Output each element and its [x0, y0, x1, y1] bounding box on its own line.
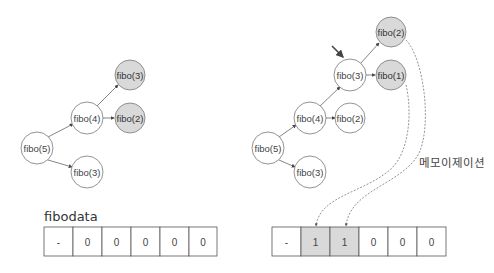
current-call-pointer-icon: [332, 46, 343, 57]
right-cell-4: 0: [400, 237, 406, 248]
memoization-arrows: [316, 40, 425, 226]
edge-fibo5-fibo4: [279, 125, 296, 137]
edge-fibo4-fibo3: [97, 85, 118, 106]
node-fibo4: fibo(4): [294, 102, 326, 134]
svg-text:fibo(4): fibo(4): [297, 113, 324, 124]
right-cell-2: 1: [342, 237, 348, 248]
svg-text:fibo(4): fibo(4): [74, 113, 101, 124]
node-fibo3: fibo(3): [334, 59, 366, 91]
svg-text:fibo(2): fibo(2): [378, 27, 405, 38]
left-tree-nodes: fibo(5) fibo(4) fibo(3) fibo(2) fibo(3): [21, 60, 145, 188]
edge-fibo5-fibo3: [48, 160, 72, 167]
svg-text:fibo(3): fibo(3): [74, 167, 101, 178]
node-fibo3-cached: fibo(3): [115, 60, 145, 90]
svg-text:fibo(5): fibo(5): [255, 143, 282, 154]
svg-text:fibo(2): fibo(2): [337, 113, 364, 124]
svg-text:fibo(3): fibo(3): [117, 70, 144, 81]
edge-fibo4-fibo3: [320, 87, 340, 106]
memoization-label: 메모이제이션: [419, 156, 485, 170]
left-cell-1: 0: [85, 237, 91, 248]
fibodata-label: fibodata: [44, 209, 98, 224]
right-tree-nodes: fibo(5) fibo(4) fibo(2) fibo(3) fibo(3) …: [252, 17, 406, 188]
node-fibo2: fibo(2): [335, 103, 365, 133]
svg-text:fibo(3): fibo(3): [337, 70, 364, 81]
right-cell-1: 1: [313, 237, 319, 248]
left-cell-3: 0: [143, 237, 149, 248]
svg-text:fibo(1): fibo(1): [378, 70, 405, 81]
edge-fibo5-fibo3: [279, 160, 295, 167]
node-fibo2-cached: fibo(2): [376, 17, 406, 47]
node-fibo3: fibo(3): [71, 156, 103, 188]
svg-text:fibo(2): fibo(2): [117, 113, 144, 124]
node-fibo2-cached: fibo(2): [115, 103, 145, 133]
memo-arrow-fibo1: [316, 85, 409, 226]
node-fibo4: fibo(4): [71, 102, 103, 134]
svg-text:fibo(5): fibo(5): [24, 143, 51, 154]
svg-text:fibo(3): fibo(3): [297, 167, 324, 178]
node-fibo5: fibo(5): [252, 132, 284, 164]
left-cell-4: 0: [172, 237, 178, 248]
left-cell-0: -: [57, 237, 60, 248]
edge-fibo5-fibo4: [48, 124, 73, 137]
right-cell-0: -: [285, 237, 288, 248]
node-fibo1-cached: fibo(1): [376, 60, 406, 90]
left-cell-2: 0: [114, 237, 120, 248]
node-fibo3-bottom: fibo(3): [294, 156, 326, 188]
left-fibodata-table: - 0 0 0 0 0: [44, 227, 217, 256]
right-cell-3: 0: [371, 237, 377, 248]
memoization-diagram: fibo(5) fibo(4) fibo(3) fibo(2) fibo(3) …: [0, 0, 494, 273]
right-fibodata-table: - 1 1 0 0 0: [272, 227, 446, 256]
node-fibo5: fibo(5): [21, 132, 53, 164]
edge-fibo3-fibo2: [361, 43, 379, 63]
left-cell-5: 0: [200, 237, 206, 248]
right-tree-edges: [279, 43, 379, 167]
right-cell-5: 0: [429, 237, 435, 248]
